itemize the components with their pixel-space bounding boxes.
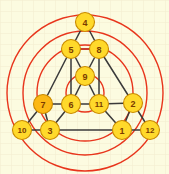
node-circle xyxy=(76,67,95,86)
concentric-circles-group xyxy=(7,15,163,171)
node-circle xyxy=(62,95,81,114)
node-circle xyxy=(141,121,160,140)
graph-nodes-group: 458976112103112 xyxy=(13,13,160,140)
graph-node-12[interactable]: 12 xyxy=(141,121,160,140)
graph-node-8[interactable]: 8 xyxy=(90,40,109,59)
graph-node-1[interactable]: 1 xyxy=(113,121,132,140)
graph-node-5[interactable]: 5 xyxy=(62,40,81,59)
outer-circle xyxy=(7,15,163,171)
node-circle xyxy=(76,13,95,32)
graph-node-10[interactable]: 10 xyxy=(13,121,32,140)
node-circle xyxy=(124,94,143,113)
node-circle xyxy=(41,121,60,140)
node-circle xyxy=(90,40,109,59)
graph-node-7[interactable]: 7 xyxy=(34,95,53,114)
node-circle xyxy=(62,40,81,59)
diagram-canvas: 458976112103112 xyxy=(0,0,169,174)
graph-figure: 458976112103112 xyxy=(0,0,169,174)
graph-node-6[interactable]: 6 xyxy=(62,95,81,114)
node-circle xyxy=(13,121,32,140)
node-circle xyxy=(90,95,109,114)
node-circle xyxy=(34,95,53,114)
graph-node-11[interactable]: 11 xyxy=(90,95,109,114)
graph-node-2[interactable]: 2 xyxy=(124,94,143,113)
node-circle xyxy=(113,121,132,140)
graph-node-3[interactable]: 3 xyxy=(41,121,60,140)
graph-node-4[interactable]: 4 xyxy=(76,13,95,32)
graph-node-9[interactable]: 9 xyxy=(76,67,95,86)
